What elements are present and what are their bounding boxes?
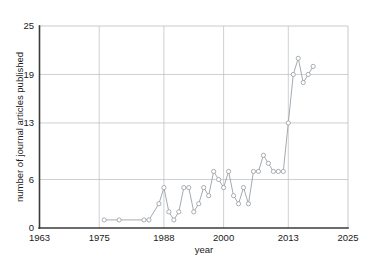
series-data-point xyxy=(231,194,235,198)
series-data-point xyxy=(182,186,186,190)
x-tick-label: 2000 xyxy=(213,232,234,243)
series-data-point xyxy=(147,218,151,222)
x-tick-label: 2025 xyxy=(337,232,358,243)
series-data-point xyxy=(241,186,245,190)
y-tick-label: 19 xyxy=(23,69,34,80)
axes xyxy=(39,26,348,228)
series-data-point xyxy=(246,202,250,206)
series-data-point xyxy=(276,169,280,173)
series-data-point xyxy=(222,186,226,190)
series-data-point xyxy=(162,186,166,190)
series-data-point xyxy=(187,186,191,190)
y-tick-label: 6 xyxy=(29,174,34,185)
series-data-point xyxy=(102,218,106,222)
series-data-point xyxy=(296,56,300,60)
data-series-group xyxy=(102,56,315,222)
x-tick-label: 1975 xyxy=(89,232,110,243)
vertical-gridlines xyxy=(99,26,288,228)
series-data-point xyxy=(212,169,216,173)
plot-frame xyxy=(39,26,348,228)
series-data-point xyxy=(301,80,305,84)
series-data-point xyxy=(202,186,206,190)
series-data-point xyxy=(117,218,121,222)
series-data-point xyxy=(291,72,295,76)
y-axis-title: number of journal articles published xyxy=(14,52,25,202)
legend-open-circle-marker xyxy=(187,6,191,10)
series-data-point xyxy=(266,161,270,165)
series-data-point xyxy=(306,72,310,76)
series-data-point xyxy=(197,202,201,206)
line-chart: 06131925 196319751988200020132025 number… xyxy=(0,0,380,272)
series-data-point xyxy=(226,169,230,173)
series-data-point xyxy=(256,169,260,173)
x-tick-label: 1963 xyxy=(29,232,50,243)
series-data-point xyxy=(281,169,285,173)
series-data-point xyxy=(167,210,171,214)
x-axis-title: year xyxy=(195,244,213,255)
series-data-point xyxy=(261,153,265,157)
x-axis-tick-labels: 196319751988200020132025 xyxy=(29,232,359,243)
series-data-point xyxy=(177,210,181,214)
series-data-point xyxy=(251,169,255,173)
series-data-point xyxy=(172,218,176,222)
series-data-point xyxy=(192,210,196,214)
series-data-point xyxy=(217,177,221,181)
series-data-point xyxy=(142,218,146,222)
y-tick-label: 13 xyxy=(23,117,34,128)
x-tick-label: 2013 xyxy=(278,232,299,243)
series-data-point xyxy=(271,169,275,173)
chart-legend xyxy=(178,6,201,10)
series-data-point xyxy=(157,202,161,206)
horizontal-gridlines xyxy=(40,74,349,179)
series-data-point xyxy=(236,202,240,206)
chart-container: 06131925 196319751988200020132025 number… xyxy=(0,0,380,272)
series-data-point xyxy=(311,64,315,68)
series-data-point xyxy=(286,121,290,125)
y-axis-tick-labels: 06131925 xyxy=(23,20,34,233)
series-data-point xyxy=(207,194,211,198)
x-tick-label: 1988 xyxy=(153,232,174,243)
y-tick-label: 25 xyxy=(23,20,34,31)
